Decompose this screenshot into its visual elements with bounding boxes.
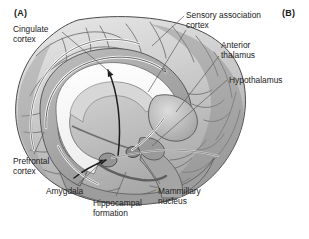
label-amygdala: Amygdala	[46, 186, 83, 196]
label-sensory-association-cortex: Sensory association cortex	[186, 10, 261, 30]
label-prefrontal-cortex: Prefrontal cortex	[13, 156, 49, 176]
label-anterior-thalamus: Anterior thalamus	[221, 40, 255, 60]
label-hypothalamus: Hypothalamus	[229, 75, 283, 85]
label-mammillary-nucleus: Mammillary nucleus	[158, 186, 201, 206]
panel-label-a: (A)	[14, 8, 27, 18]
brain-illustration	[16, 16, 246, 205]
label-hippocampal-formation: Hippocampal formation	[93, 198, 142, 218]
amygdala	[99, 153, 117, 167]
label-cingulate-cortex: Cingulate cortex	[13, 24, 48, 44]
panel-label-b: (B)	[282, 8, 295, 18]
